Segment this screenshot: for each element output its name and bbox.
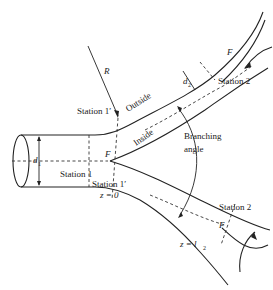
station-1-label: Station 1 xyxy=(60,169,92,179)
lower-flow-divider xyxy=(240,232,255,272)
flow-divider-upper-label: F xyxy=(226,47,233,57)
branching-pipe-diagram: R Outside Inside F F F d 1 d 2 Station 1… xyxy=(0,0,273,290)
d1-arrow-bottom xyxy=(37,181,41,186)
z-l2-subscript: 2 xyxy=(203,245,206,251)
branching-arc-arrow-bottom xyxy=(178,212,183,218)
radius-label: R xyxy=(103,66,110,76)
lower-branch-centerline xyxy=(150,195,225,225)
outside-label: Outside xyxy=(124,90,153,113)
station-2-upper-label: Station 2 xyxy=(218,76,250,86)
flow-divider-lower-label: F xyxy=(218,220,225,230)
d1-subscript: 1 xyxy=(38,161,41,167)
upper-branch-outer-wall xyxy=(135,12,263,122)
station-1-prime-top-label: Station 1′ xyxy=(77,106,111,116)
z-l2-label: z = l xyxy=(179,239,197,249)
flow-divider-center-label: F xyxy=(104,149,111,159)
station-1-prime-bottom-label: Station 1′ xyxy=(92,179,126,189)
inlet-opening-ellipse xyxy=(13,135,29,187)
radius-arrowhead xyxy=(114,110,119,118)
d2-subscript: 2 xyxy=(188,82,191,88)
d1-arrow-top xyxy=(37,136,41,141)
lower-F-arrowhead xyxy=(251,232,257,240)
z-zero-label: z = 0 xyxy=(99,190,119,200)
station-2-lower-label: Station 2 xyxy=(219,202,251,212)
inside-label: Inside xyxy=(131,127,155,148)
branching-angle-arc xyxy=(178,108,197,215)
branching-angle-label-1: Branching xyxy=(184,131,222,141)
branching-angle-label-2: angle xyxy=(184,144,204,154)
